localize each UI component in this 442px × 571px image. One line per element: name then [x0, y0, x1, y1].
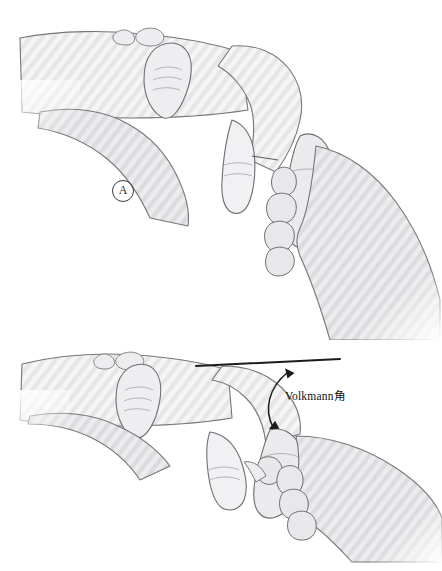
edge-fade-right [360, 250, 442, 340]
patient-index-finger [222, 120, 255, 214]
patient-knuckles [113, 30, 135, 45]
volkmann-angle-figure: A [0, 0, 442, 571]
examiner-fingertip-4 [288, 511, 317, 540]
patient-thumb [116, 364, 161, 438]
horizontal-reference-line [196, 359, 340, 366]
patient-knuckles [94, 354, 115, 369]
examiner-fingertip-4 [266, 247, 295, 276]
panel-b-illustration [0, 340, 442, 571]
patient-knuckle-2 [136, 28, 164, 46]
panel-a-illustration [0, 0, 442, 340]
edge-fade-right [370, 490, 442, 571]
volkmann-angle-label: Volkmann角 [285, 387, 345, 403]
panel-b: B [0, 340, 442, 571]
panel-label-a: A [112, 180, 134, 202]
edge-fade-left [0, 390, 70, 500]
edge-fade-left [0, 80, 80, 220]
panel-a: A [0, 0, 442, 340]
patient-index-finger [207, 432, 246, 510]
examiner-fingertip-1 [271, 167, 296, 196]
examiner-fingertip-2 [267, 193, 297, 224]
